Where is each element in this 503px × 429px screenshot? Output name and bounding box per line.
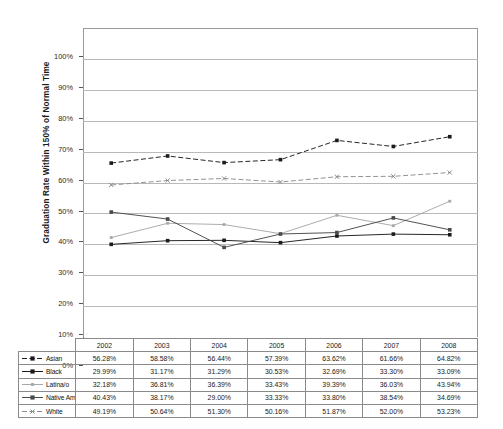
legend-item-white[interactable]: White [19,404,76,417]
legend-marker-black [22,367,43,376]
table-cell-value: 38.17% [133,391,190,404]
legend-corner [19,339,76,352]
y-axis-tick-label: 80% [29,113,73,122]
legend-swatch [22,393,43,402]
table-cell-value: 57.39% [248,352,305,365]
data-point-marker [109,161,113,165]
legend-label: White [46,408,63,415]
legend-label: Asian [46,355,62,362]
legend-label: Black [46,368,62,375]
table-cell-value: 32.18% [76,378,133,391]
data-point-marker [223,223,226,226]
plot-area [83,28,478,337]
data-point-marker [222,239,226,243]
table-cell-value: 56.44% [191,352,248,365]
table-cell-value: 49.19% [76,404,133,417]
data-point-marker [166,222,169,225]
table-column-header-year: 2004 [191,339,248,352]
table-cell-value: 38.54% [363,391,420,404]
legend-marker-latina-o [22,380,43,389]
data-point-marker [392,145,396,149]
legend-swatch [22,354,43,363]
table-header-row: 2002200320042005200620072008 [19,339,478,352]
data-point-marker [110,236,113,239]
y-axis-tick-label: 60% [29,175,73,184]
legend-marker-native-american [22,393,43,402]
chart-figure: Graduation Rate Within 150% of Normal Ti… [0,0,503,429]
table-cell-value: 33.30% [363,365,420,378]
table-cell-value: 50.64% [133,404,190,417]
data-point-marker [166,217,170,221]
data-point-marker [222,246,226,250]
table-cell-value: 29.00% [191,391,248,404]
table-cell-value: 31.29% [191,365,248,378]
y-axis-tick-label: 70% [29,144,73,153]
data-point-marker [448,233,452,237]
legend-item-black[interactable]: Black [19,365,76,378]
table-cell-value: 31.17% [133,365,190,378]
table-column-header-year: 2007 [363,339,420,352]
table-column-header-year: 2006 [305,339,362,352]
y-axis-tick-label: 20% [29,299,73,308]
data-point-marker [109,243,113,247]
table-column-header-year: 2003 [133,339,190,352]
table-cell-value: 36.81% [133,378,190,391]
data-point-marker [279,241,283,245]
data-point-marker [335,234,339,238]
table-cell-value: 29.99% [76,365,133,378]
table-cell-value: 34.69% [420,391,477,404]
table-column-header-year: 2005 [248,339,305,352]
y-axis-tick-label: 90% [29,82,73,91]
table-cell-value: 61.66% [363,352,420,365]
table-row: Black29.99%31.17%31.29%30.53%32.69%33.30… [19,365,478,378]
table-cell-value: 63.62% [305,352,362,365]
table-cell-value: 40.43% [76,391,133,404]
table-cell-value: 33.33% [248,391,305,404]
legend-swatch [22,380,43,389]
table-cell-value: 30.53% [248,365,305,378]
legend-marker-white [22,407,43,416]
table-cell-value: 53.23% [420,404,477,417]
table-cell-value: 51.87% [305,404,362,417]
table-cell-value: 32.69% [305,365,362,378]
data-point-marker [166,239,170,243]
y-axis-tick-label: 100% [29,52,73,61]
legend-item-latina-o[interactable]: Latina/o [19,378,76,391]
y-axis-tick-label: 40% [29,237,73,246]
table-cell-value: 39.39% [305,378,362,391]
table-cell-value: 43.94% [420,378,477,391]
data-point-marker [392,232,396,236]
table-cell-value: 33.43% [248,378,305,391]
table-row: Asian56.28%58.58%56.44%57.39%63.62%61.66… [19,352,478,365]
table-row: Native American40.43%38.17%29.00%33.33%3… [19,391,478,404]
table-cell-value: 52.00% [363,404,420,417]
table-cell-value: 36.39% [191,378,248,391]
data-point-marker [335,139,339,143]
data-point-marker [166,154,170,158]
y-axis-tick-label: 50% [29,206,73,215]
table-cell-value: 56.28% [76,352,133,365]
data-point-marker [222,161,226,165]
legend-swatch [22,407,43,416]
data-point-marker [336,214,339,217]
table-row: White49.19%50.64%51.30%50.16%51.87%52.00… [19,404,478,417]
legend-item-native-american[interactable]: Native American [19,391,76,404]
table-row: Latina/o32.18%36.81%36.39%33.43%39.39%36… [19,378,478,391]
legend-swatch [22,367,43,376]
y-axis-tick-label: 30% [29,268,73,277]
legend-label: Latina/o [46,381,69,388]
table-body: Asian56.28%58.58%56.44%57.39%63.62%61.66… [19,352,478,418]
data-point-marker [335,231,339,235]
series-line-white [111,173,450,185]
data-point-marker [448,228,452,232]
legend-item-asian[interactable]: Asian [19,352,76,365]
data-point-marker [279,232,283,236]
table-cell-value: 33.09% [420,365,477,378]
table-column-header-year: 2008 [420,339,477,352]
data-table: 2002200320042005200620072008 Asian56.28%… [18,338,478,418]
series-layer [83,28,478,337]
table-cell-value: 33.80% [305,391,362,404]
legend-marker-asian [22,354,43,363]
y-axis: 100%90%80%70%60%50%40%30%20%10%0% [0,28,83,337]
data-point-marker [448,135,452,139]
